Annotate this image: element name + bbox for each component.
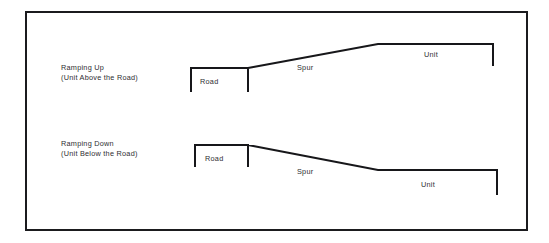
ramping-down-unit-label: Unit — [421, 180, 435, 189]
ramping-up-road-label: Road — [200, 77, 218, 86]
figure-root: Ramping Up (Unit Above the Road) Road Sp… — [0, 0, 549, 243]
diagram-ramping-down: Ramping Down (Unit Below the Road) Road … — [61, 139, 497, 195]
ramping-up-spur-label: Spur — [297, 63, 314, 72]
ramping-up-profile-line — [191, 44, 493, 92]
ramping-up-unit-label: Unit — [424, 50, 438, 59]
diagram-ramping-up: Ramping Up (Unit Above the Road) Road Sp… — [61, 44, 493, 92]
ramping-down-road-label: Road — [205, 154, 223, 163]
ramping-up-caption-line1: Ramping Up — [61, 63, 104, 72]
diagram-canvas: Ramping Up (Unit Above the Road) Road Sp… — [0, 0, 549, 243]
ramping-up-caption-line2: (Unit Above the Road) — [61, 73, 138, 82]
ramping-down-profile-line — [195, 145, 497, 195]
ramping-down-spur-label: Spur — [297, 167, 314, 176]
ramping-down-caption-line1: Ramping Down — [61, 139, 114, 148]
ramping-down-caption-line2: (Unit Below the Road) — [61, 149, 138, 158]
